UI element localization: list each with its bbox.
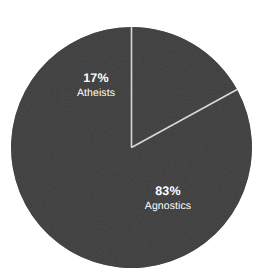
pie-label-agnostics: 83% Agnostics xyxy=(145,184,191,212)
pie-chart-graphic xyxy=(0,0,261,276)
pie-label-atheists-name: Atheists xyxy=(77,87,115,99)
pie-chart: 17% Atheists 83% Agnostics xyxy=(0,0,261,276)
pie-label-atheists-value: 17% xyxy=(77,71,115,86)
pie-label-agnostics-name: Agnostics xyxy=(145,200,191,212)
pie-label-atheists: 17% Atheists xyxy=(77,71,115,99)
pie-label-agnostics-value: 83% xyxy=(145,184,191,199)
